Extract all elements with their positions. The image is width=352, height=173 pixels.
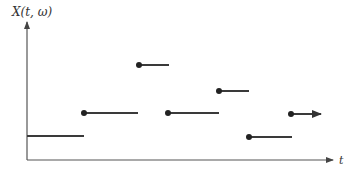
step-segments [27, 62, 321, 140]
closed-dot-icon [81, 110, 87, 116]
step-segment [216, 88, 249, 94]
step-segment [246, 134, 292, 140]
y-axis-label: X(t, ω) [11, 5, 52, 19]
step-segment [136, 62, 169, 68]
x-axis-label: t [339, 154, 344, 167]
step-segment [81, 110, 138, 116]
step-segment [165, 110, 219, 116]
closed-dot-icon [216, 88, 222, 94]
closed-dot-icon [246, 134, 252, 140]
step-segment [288, 111, 321, 117]
closed-dot-icon [136, 62, 142, 68]
step-process-diagram: X(t, ω) t [0, 0, 352, 173]
closed-dot-icon [288, 111, 294, 117]
axes [27, 22, 333, 160]
closed-dot-icon [165, 110, 171, 116]
